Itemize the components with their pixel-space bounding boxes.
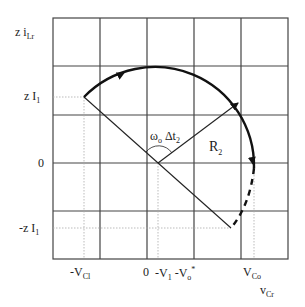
- y-tick-neg-zI1: -z I1: [19, 222, 39, 237]
- x-tick-neg-V1-Vo: -V1 -Vo*: [155, 266, 195, 282]
- angle-label: ωo Δt2: [150, 130, 180, 145]
- trajectory: [84, 67, 254, 228]
- y-tick-zero: 0: [38, 157, 44, 169]
- guide-lines: [53, 97, 254, 259]
- y-tick-zI1: z I1: [24, 90, 40, 105]
- x-tick-VCo: VCo: [243, 266, 261, 281]
- state-plane-diagram: [0, 0, 305, 307]
- x-tick-neg-VCl: -VCl: [70, 266, 90, 281]
- x-tick-zero: 0: [143, 266, 149, 278]
- y-axis-label: z iLr: [15, 26, 34, 41]
- radius-label: R2: [209, 140, 222, 157]
- x-axis-label: vCr: [260, 284, 274, 299]
